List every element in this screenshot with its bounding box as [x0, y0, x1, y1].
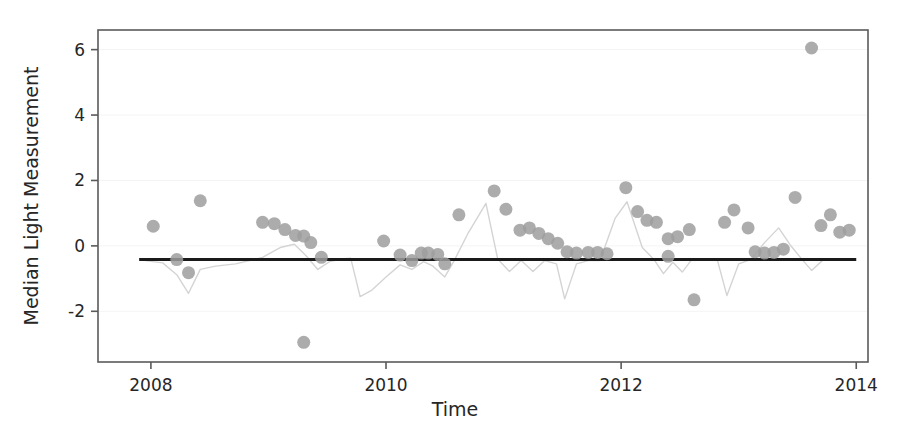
- data-points: [147, 41, 856, 348]
- y-axis-ticks: -20246: [68, 40, 98, 322]
- x-axis-title: Time: [431, 398, 479, 420]
- x-tick-label: 2010: [364, 375, 407, 395]
- x-tick-label: 2008: [129, 375, 172, 395]
- y-tick-label: 6: [74, 40, 85, 60]
- x-tick-label: 2012: [599, 375, 642, 395]
- y-tick-label: -2: [68, 301, 85, 321]
- x-tick-label: 2014: [835, 375, 878, 395]
- y-tick-label: 4: [74, 105, 85, 125]
- chart-container: 2008201020122014 -20246 Time Median Ligh…: [0, 0, 911, 431]
- gridlines: [99, 50, 867, 312]
- y-tick-label: 2: [74, 170, 85, 190]
- y-tick-label: 0: [74, 236, 85, 256]
- plot-frame: [98, 30, 868, 362]
- model-fit-line: [145, 202, 852, 299]
- x-axis-ticks: 2008201020122014: [129, 362, 878, 395]
- scatter-plot: 2008201020122014 -20246 Time Median Ligh…: [0, 0, 911, 431]
- y-axis-title: Median Light Measurement: [20, 66, 42, 325]
